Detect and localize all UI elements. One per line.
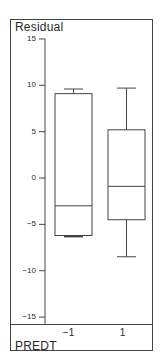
- y-tick-label: 5: [6, 127, 36, 136]
- x-category-label: 1: [108, 327, 138, 338]
- y-tick-label: 10: [6, 80, 36, 89]
- y-tick-label: −5: [6, 219, 36, 228]
- y-tick-label: −10: [6, 266, 36, 275]
- y-tick-label: 15: [6, 34, 36, 43]
- iqr-box: [108, 130, 145, 220]
- y-tick-label: −15: [6, 312, 36, 321]
- iqr-box: [55, 94, 92, 236]
- x-category-label: −1: [54, 327, 84, 338]
- box-plot: [0, 0, 163, 364]
- y-tick-label: 0: [6, 173, 36, 182]
